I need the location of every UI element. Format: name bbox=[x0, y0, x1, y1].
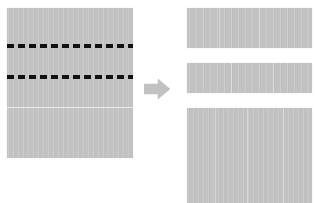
result-page-1[interactable] bbox=[187, 8, 312, 48]
result-2-seam-b bbox=[273, 63, 274, 93]
page-seam-line bbox=[7, 107, 133, 108]
result-page-2[interactable] bbox=[187, 63, 312, 93]
right-arrow-icon bbox=[144, 79, 170, 99]
cut-line-bottom[interactable] bbox=[7, 75, 133, 79]
diagram-canvas bbox=[0, 0, 316, 203]
cut-line-top[interactable] bbox=[7, 44, 133, 48]
result-3-seam-c bbox=[283, 108, 284, 203]
result-3-seam-b bbox=[247, 108, 248, 203]
result-2-seam-a bbox=[231, 63, 232, 93]
result-1-seam-b bbox=[259, 8, 260, 48]
source-page[interactable] bbox=[7, 8, 133, 158]
result-1-seam-a bbox=[219, 8, 220, 48]
result-page-3[interactable] bbox=[187, 108, 312, 203]
result-3-seam-a bbox=[215, 108, 216, 203]
